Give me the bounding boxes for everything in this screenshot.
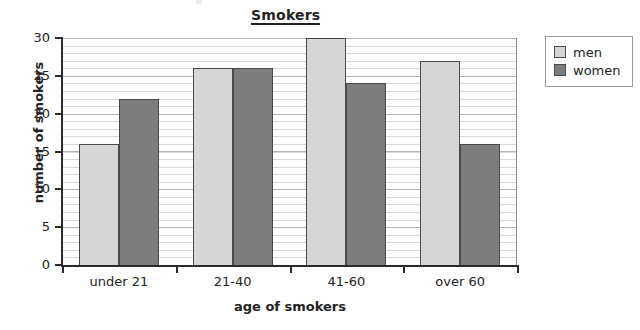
y-tick-mark: [55, 113, 62, 115]
x-tick-mark: [176, 266, 178, 273]
bar-men-over-60[interactable]: [420, 61, 460, 266]
x-tick-label: over 60: [400, 274, 520, 289]
legend-label-men: men: [573, 46, 602, 59]
bar-women-under-21[interactable]: [119, 99, 159, 266]
bar-women-over-60[interactable]: [460, 144, 500, 266]
legend-label-women: women: [573, 64, 621, 77]
y-axis-title: number of smokers: [31, 33, 46, 233]
y-tick-mark: [55, 75, 62, 77]
x-tick-label: under 21: [59, 274, 179, 289]
bar-men-41-60[interactable]: [306, 38, 346, 266]
plot-right-edge: [516, 38, 517, 265]
bar-women-21-40[interactable]: [233, 68, 273, 266]
plot-area: [62, 38, 517, 265]
legend-item-men[interactable]: men: [554, 43, 625, 61]
bar-men-under-21[interactable]: [79, 144, 119, 266]
y-tick-mark: [55, 226, 62, 228]
x-tick-label: 21-40: [173, 274, 293, 289]
x-tick-mark: [290, 266, 292, 273]
bar-men-21-40[interactable]: [193, 68, 233, 266]
legend-swatch-men-icon: [554, 46, 566, 58]
y-tick-mark: [55, 151, 62, 153]
scan-artifact: [196, 0, 202, 4]
x-tick-mark: [62, 266, 64, 273]
y-tick-mark: [55, 264, 62, 266]
bar-women-41-60[interactable]: [346, 83, 386, 266]
y-tick-label: 0: [10, 258, 50, 271]
y-tick-mark: [55, 37, 62, 39]
x-tick-mark: [403, 266, 405, 273]
chart-title: Smokers: [251, 8, 320, 25]
x-axis-title: age of smokers: [190, 299, 390, 314]
x-tick-mark: [517, 266, 519, 273]
legend-swatch-women-icon: [554, 64, 566, 76]
x-tick-label: 41-60: [286, 274, 406, 289]
y-tick-mark: [55, 188, 62, 190]
legend-item-women[interactable]: women: [554, 61, 625, 79]
legend: men women: [545, 36, 633, 87]
